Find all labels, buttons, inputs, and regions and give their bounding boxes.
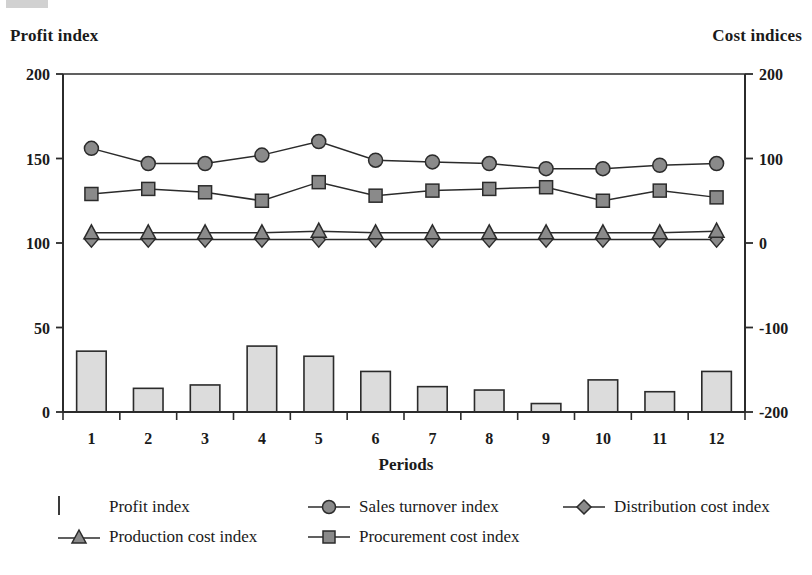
x-category-label-10: 10 [595,430,611,447]
x-category-label-1: 1 [87,430,95,447]
marker-sales-turnover-index-8 [482,157,496,171]
marker-sales-turnover-index-9 [539,162,553,176]
left-tick-label-200: 200 [26,66,50,83]
bar-profit-index-6 [361,371,391,412]
x-axis-title: Periods [0,455,812,475]
marker-procurement-cost-index-1 [85,187,98,200]
left-tick-label-100: 100 [26,235,50,252]
marker-procurement-cost-index-2 [142,182,155,195]
x-category-label-12: 12 [709,430,725,447]
circle-marker-icon [306,497,352,517]
diamond-marker-icon [561,497,607,517]
legend-item-production-cost-index[interactable]: Production cost index [56,527,306,547]
legend-item-procurement-cost-index[interactable]: Procurement cost index [306,527,520,547]
bar-profit-index-7 [418,387,448,412]
square-marker-icon [306,527,352,547]
marker-production-cost-index-10 [595,225,610,239]
marker-production-cost-index-5 [311,223,326,237]
bar-profit-index-2 [133,388,163,412]
line-production-cost-index [91,231,716,233]
x-category-label-2: 2 [144,430,152,447]
legend-item-profit-index[interactable]: Profit index [56,497,306,517]
x-category-label-9: 9 [542,430,550,447]
marker-sales-turnover-index-10 [596,162,610,176]
marker-sales-turnover-index-7 [425,155,439,169]
x-category-label-3: 3 [201,430,209,447]
right-tick-label--200: -200 [759,404,788,421]
x-category-label-6: 6 [372,430,380,447]
marker-procurement-cost-index-6 [369,189,382,202]
legend-label: Procurement cost index [359,527,520,547]
right-tick-label-200: 200 [759,66,783,83]
marker-sales-turnover-index-3 [198,157,212,171]
chart-plot-area: 050100150200-200-10001002001234567891011… [0,0,812,575]
bar-profit-index-3 [190,385,220,412]
bar-profit-index-1 [77,351,107,412]
line-series-group [84,135,724,248]
marker-production-cost-index-7 [425,225,440,239]
marker-sales-turnover-index-12 [710,157,724,171]
left-tick-label-150: 150 [26,151,50,168]
marker-production-cost-index-2 [141,225,156,239]
chart-svg: 050100150200-200-10001002001234567891011… [0,0,812,575]
legend-label: Production cost index [109,527,257,547]
marker-sales-turnover-index-2 [141,157,155,171]
marker-sales-turnover-index-6 [369,153,383,167]
marker-production-cost-index-6 [368,225,383,239]
marker-procurement-cost-index-12 [710,191,723,204]
bar-profit-index-4 [247,346,277,412]
right-tick-label-100: 100 [759,151,783,168]
line-procurement-cost-index [91,182,716,201]
marker-procurement-cost-index-11 [653,184,666,197]
marker-procurement-cost-index-4 [255,194,268,207]
x-category-label-8: 8 [485,430,493,447]
triangle-marker-icon [56,527,102,547]
x-category-label-5: 5 [315,430,323,447]
marker-sales-turnover-index-4 [255,148,269,162]
bar-profit-index-5 [304,356,334,412]
left-tick-label-50: 50 [34,320,50,337]
marker-production-cost-index-1 [84,225,99,239]
marker-procurement-cost-index-7 [426,184,439,197]
bar-series-group [77,346,732,412]
marker-procurement-cost-index-10 [596,194,609,207]
marker-production-cost-index-3 [198,225,213,239]
axes-group [56,74,753,420]
x-category-label-4: 4 [258,430,266,447]
bar-profit-index-9 [531,404,561,412]
marker-procurement-cost-index-8 [483,182,496,195]
right-tick-label-0: 0 [759,235,767,252]
legend-label: Profit index [109,497,190,517]
marker-sales-turnover-index-11 [653,158,667,172]
marker-procurement-cost-index-3 [199,186,212,199]
legend-row-1: Profit index Sales turnover index Distri… [56,492,776,522]
bar-swatch-icon [56,497,102,517]
marker-production-cost-index-11 [652,225,667,239]
legend-row-2: Production cost index Procurement cost i… [56,522,776,552]
marker-production-cost-index-4 [254,225,269,239]
right-tick-label--100: -100 [759,320,788,337]
marker-sales-turnover-index-1 [84,141,98,155]
marker-production-cost-index-9 [539,225,554,239]
x-category-label-11: 11 [652,430,667,447]
bar-profit-index-12 [702,371,732,412]
marker-production-cost-index-12 [709,223,724,237]
bar-profit-index-8 [474,390,504,412]
legend-label: Distribution cost index [614,497,770,517]
chart-legend: Profit index Sales turnover index Distri… [56,492,776,552]
marker-procurement-cost-index-9 [540,181,553,194]
x-category-label-7: 7 [428,430,436,447]
marker-sales-turnover-index-5 [312,135,326,149]
bar-profit-index-10 [588,380,618,412]
left-tick-label-0: 0 [42,404,50,421]
marker-procurement-cost-index-5 [312,176,325,189]
legend-item-sales-turnover-index[interactable]: Sales turnover index [306,497,561,517]
legend-label: Sales turnover index [359,497,499,517]
line-sales-turnover-index [91,142,716,169]
bar-profit-index-11 [645,392,675,412]
marker-production-cost-index-8 [482,225,497,239]
legend-item-distribution-cost-index[interactable]: Distribution cost index [561,497,770,517]
